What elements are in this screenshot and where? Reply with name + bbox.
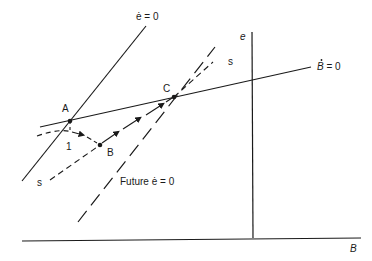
saddle-path-end-label: s xyxy=(228,56,233,67)
b-axis xyxy=(22,238,361,241)
point-c-label: C xyxy=(163,83,170,94)
diagram-svg: ė = 0 A C B 1 s s Future ė = 0 e B B = 0 xyxy=(0,0,372,261)
point-c-dot xyxy=(172,95,177,100)
e-dot-zero-label: ė = 0 xyxy=(136,11,159,22)
e-axis xyxy=(252,32,253,238)
future-e-dot-zero-label: Future ė = 0 xyxy=(120,176,175,187)
arrow-b-to-c-1 xyxy=(102,132,118,143)
saddle-path-start-label: s xyxy=(37,177,42,188)
b-dot-zero-equals: = 0 xyxy=(324,61,341,72)
b-dot-zero-label: B = 0 xyxy=(317,61,341,72)
phase-diagram: ė = 0 A C B 1 s s Future ė = 0 e B B = 0 xyxy=(0,0,372,261)
arrow-b-to-c-2 xyxy=(123,118,140,129)
saddle-path-line xyxy=(50,145,100,180)
point-a-dot xyxy=(68,119,73,124)
future-e-dot-zero-line xyxy=(78,47,215,222)
e-dot-zero-line xyxy=(22,26,146,181)
e-axis-label: e xyxy=(240,31,246,42)
b-axis-label: B xyxy=(350,243,357,254)
b-dot-overdot xyxy=(321,59,323,61)
arrow-b-to-c-3 xyxy=(146,104,163,115)
arrow-to-b-2 xyxy=(87,137,97,143)
point-b-dot xyxy=(98,143,103,148)
arrow-to-b-1 xyxy=(72,132,83,135)
step-one-label: 1 xyxy=(66,141,72,152)
point-b-label: B xyxy=(107,147,114,158)
saddle-path-upper xyxy=(174,62,213,97)
trajectory-to-b xyxy=(37,131,72,136)
point-a-label: A xyxy=(62,103,69,114)
